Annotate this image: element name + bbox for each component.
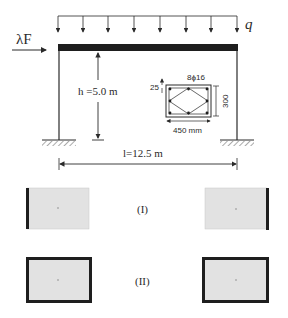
span-dimension: l=12.5 m <box>59 147 237 170</box>
section-all-exposed-left <box>28 259 91 302</box>
exposed-edge-left <box>26 188 29 229</box>
section-height-label: 300 <box>221 94 230 108</box>
rebar-label: 8ϕ16 <box>187 73 205 82</box>
case-label-2: (II) <box>135 275 150 288</box>
load-label: q <box>245 16 253 32</box>
frame-diagram: q λF h =5.0 m l=12.5 m 8ϕ16 <box>0 0 288 318</box>
span-label: l=12.5 m <box>123 147 163 159</box>
height-label: h =5.0 m <box>78 85 118 97</box>
left-fixed-support <box>42 140 76 146</box>
height-dimension: h =5.0 m <box>78 53 118 140</box>
cover-label: 25 <box>150 83 159 92</box>
lateral-load: λF <box>12 31 46 50</box>
fire-case-1: (I) <box>26 188 269 230</box>
lateral-load-label: λF <box>16 31 32 47</box>
section-width-label: 450 mm <box>173 126 202 135</box>
right-fixed-support <box>220 140 254 146</box>
fire-case-2: (II) <box>28 259 268 302</box>
exposed-edge-right <box>266 188 269 230</box>
cross-section: 8ϕ16 25 300 450 mm <box>150 73 230 135</box>
distributed-load: q <box>58 16 253 32</box>
case-label-1: (I) <box>137 203 148 216</box>
beam <box>58 44 238 51</box>
